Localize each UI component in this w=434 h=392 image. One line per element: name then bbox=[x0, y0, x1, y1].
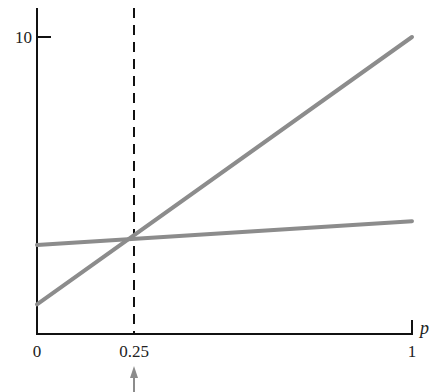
x-tick-label-0: 0 bbox=[33, 342, 42, 361]
steep-line bbox=[37, 37, 412, 304]
x-tick-label-025: 0.25 bbox=[119, 342, 149, 361]
x-tick-label-1: 1 bbox=[408, 342, 417, 361]
flat-line bbox=[37, 221, 412, 245]
x-axis-label: p bbox=[418, 318, 429, 338]
arrow-up-icon bbox=[130, 366, 138, 392]
chart: 10 0 0.25 1 p bbox=[0, 0, 434, 392]
y-tick-label-10: 10 bbox=[15, 28, 32, 47]
